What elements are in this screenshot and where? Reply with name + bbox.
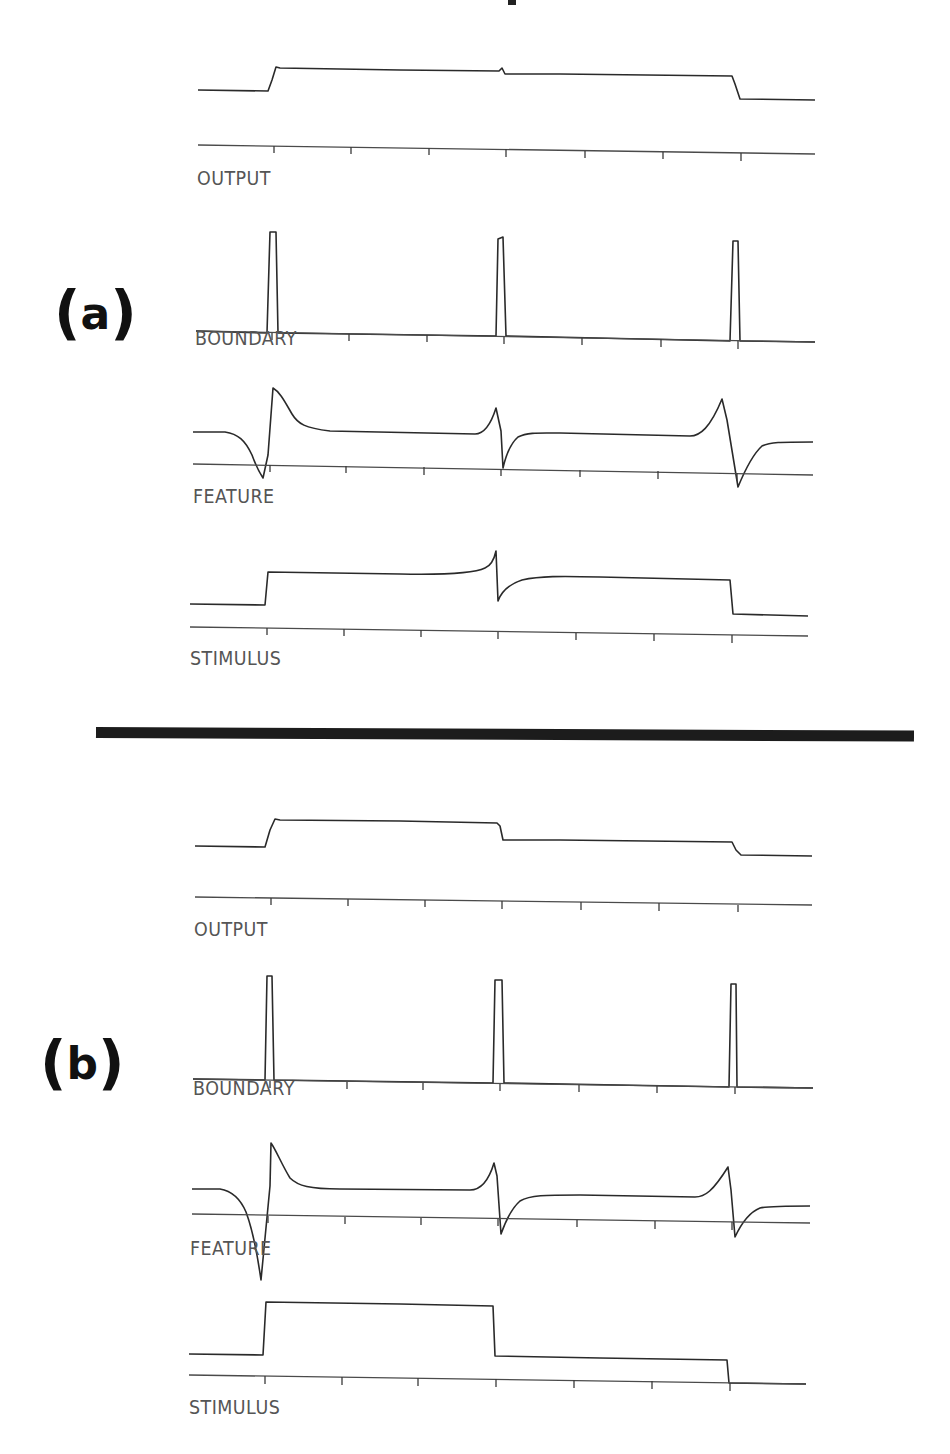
panel-b-label: (b) <box>40 1034 125 1092</box>
panel-b-output-trace <box>195 819 812 912</box>
panel-a-boundary-label: BOUNDARY <box>195 327 297 349</box>
panel-b-boundary-label: BOUNDARY <box>193 1077 295 1099</box>
panel-a-stimulus-ticks <box>267 628 732 643</box>
panel-b <box>189 819 813 1391</box>
panel-a-output-label: OUTPUT <box>197 167 271 189</box>
panel-a-close-paren: ) <box>110 279 137 347</box>
panel-b-letter: b <box>67 1038 99 1089</box>
panel-a-label: (a) <box>54 284 137 342</box>
panel-a-boundary-ticks <box>272 333 738 349</box>
panel-a-output-trace <box>198 67 815 161</box>
panel-b-stimulus-label: STIMULUS <box>189 1396 280 1418</box>
panel-b-close-paren: ) <box>98 1029 125 1097</box>
panel-b-open-paren: ( <box>40 1029 67 1097</box>
panel-a-stimulus-trace <box>190 551 808 643</box>
panel-a-stimulus-label: STIMULUS <box>190 647 281 669</box>
panel-b-stimulus-trace <box>189 1302 806 1391</box>
panel-b-output-label: OUTPUT <box>194 918 268 940</box>
panel-b-stimulus-ticks <box>265 1376 730 1391</box>
panel-b-feature-trace <box>192 1143 810 1280</box>
panel-b-output-ticks <box>271 898 738 912</box>
panel-b-feature-label: FEATURE <box>190 1237 272 1259</box>
panel-a-feature-trace <box>193 388 813 487</box>
panel-a <box>190 67 815 643</box>
panel-a-open-paren: ( <box>54 279 81 347</box>
panel-a-letter: a <box>81 288 111 339</box>
panel-a-output-ticks <box>274 146 741 161</box>
panel-a-feature-label: FEATURE <box>193 485 275 507</box>
